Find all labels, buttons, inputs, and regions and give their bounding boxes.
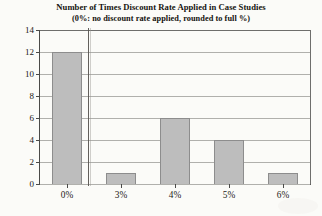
y-axis-label: 10 [25,69,34,79]
y-axis-label: 2 [30,157,35,167]
paper-texture [278,198,318,214]
x-axis-tick [229,184,230,188]
y-axis-tick [36,162,40,163]
bar-chart-figure: Number of Times Discount Rate Applied in… [0,0,322,216]
plot-area: 024681012140%3%4%5%6% [39,30,311,185]
x-axis-tick [121,184,122,188]
y-axis-tick [36,96,40,97]
bar [52,52,82,184]
gridline [40,30,310,31]
x-axis-tick [67,184,68,188]
chart-subtitle: (0%: no discount rate applied, rounded t… [0,13,322,24]
x-axis-label: 0% [61,190,73,200]
y-axis-tick [36,184,40,185]
y-axis-label: 6 [30,113,35,123]
y-axis-label: 8 [30,91,35,101]
y-axis-label: 0 [30,179,35,189]
y-axis-tick [36,30,40,31]
x-axis-label: 5% [223,190,235,200]
page-title: Number of Times Discount Rate Applied in… [0,2,322,13]
bar [268,173,298,184]
y-axis-tick [36,74,40,75]
bar [214,140,244,184]
scan-artifact-line-faint [90,28,91,186]
x-axis-label: 4% [169,190,181,200]
y-axis-label: 14 [25,25,34,35]
y-axis-label: 4 [30,135,35,145]
x-axis-tick [283,184,284,188]
bar [160,118,190,184]
y-axis-tick [36,52,40,53]
x-axis-tick [175,184,176,188]
chart-title-block: Number of Times Discount Rate Applied in… [0,2,322,24]
x-axis-label: 3% [115,190,127,200]
y-axis-label: 12 [25,47,34,57]
y-axis-tick [36,140,40,141]
y-axis-tick [36,118,40,119]
bar [106,173,136,184]
